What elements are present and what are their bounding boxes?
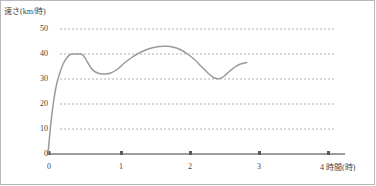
y-tick-label-40: 40 [30,50,48,58]
y-tick-label-20: 20 [30,100,48,108]
x-tick-mark-1 [120,151,123,155]
x-tick-mark-4 [327,151,330,155]
y-tick-label-10: 10 [30,125,48,133]
x-tick-mark-2 [189,151,192,155]
speed-time-chart: 速さ(km/時) 50 40 30 20 10 0 0 1 2 3 4 時間(時… [0,0,376,186]
x-tick-label-1: 1 [111,163,131,171]
y-tick-label-50: 50 [30,25,48,33]
x-axis-title: 4 時間(時) [320,163,355,172]
y-tick-label-30: 30 [30,75,48,83]
plot-area [0,0,376,186]
x-tick-label-0: 0 [39,163,59,171]
x-tick-label-3: 3 [249,163,269,171]
y-tick-label-0: 0 [30,150,48,158]
gridlines [60,29,335,129]
x-tick-mark-3 [258,151,261,155]
speed-curve-line [48,46,247,154]
x-tick-label-2: 2 [180,163,200,171]
